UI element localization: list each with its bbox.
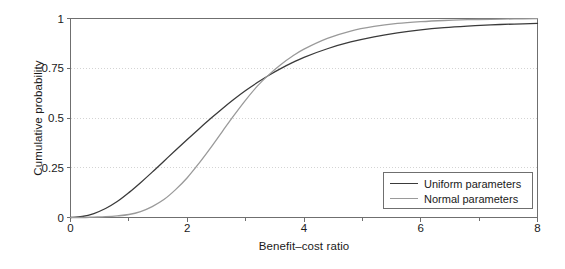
legend-item-uniform: Uniform parameters bbox=[384, 176, 532, 191]
x-axis-tick-labels: 02468 bbox=[0, 0, 565, 269]
x-tick-label: 0 bbox=[56, 222, 86, 234]
x-tick-label: 8 bbox=[523, 222, 553, 234]
x-tick-label: 2 bbox=[172, 222, 202, 234]
y-axis-title: Cumulative probability bbox=[32, 23, 44, 213]
legend-label-normal: Normal parameters bbox=[424, 193, 518, 205]
x-axis-title: Benefit–cost ratio bbox=[70, 240, 538, 252]
legend-item-normal: Normal parameters bbox=[384, 191, 532, 206]
legend-line-swatch-normal bbox=[390, 198, 418, 199]
caption-strip bbox=[0, 258, 565, 269]
chart-legend: Uniform parameters Normal parameters bbox=[383, 172, 533, 209]
legend-line-swatch-uniform bbox=[390, 183, 418, 184]
x-tick-label: 6 bbox=[406, 222, 436, 234]
cumulative-probability-chart: 10.750.50.250 02468 Cumulative probabili… bbox=[0, 0, 565, 269]
x-tick-label: 4 bbox=[289, 222, 319, 234]
legend-label-uniform: Uniform parameters bbox=[424, 178, 521, 190]
